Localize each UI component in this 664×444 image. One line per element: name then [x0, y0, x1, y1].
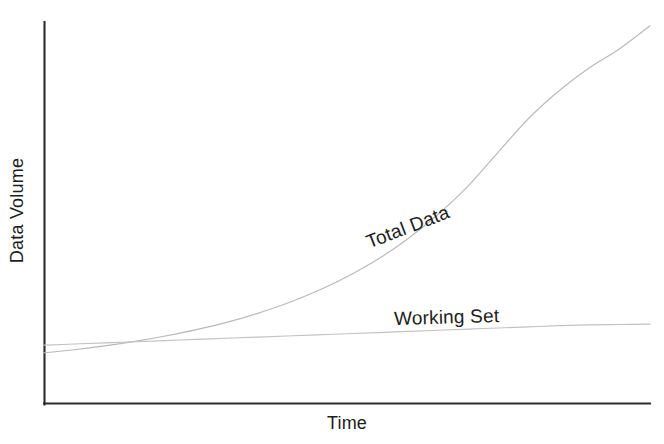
y-axis-title-text: Data Volume: [8, 157, 29, 262]
series-line-total-data: [44, 26, 650, 353]
x-axis-title: Time: [302, 413, 392, 434]
chart-figure: Data Volume Time Total Data Working Set: [0, 0, 664, 444]
y-axis-title: Data Volume: [0, 135, 36, 285]
series-label-working-set: Working Set: [394, 305, 500, 330]
chart-plot-area: [0, 0, 664, 444]
series-line-working-set: [44, 324, 650, 345]
